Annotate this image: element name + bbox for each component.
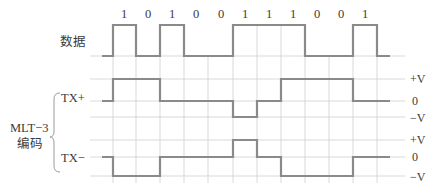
- bit-label: 1: [266, 7, 272, 21]
- tx-minus-zero-level: 0: [412, 150, 418, 164]
- tx-plus-label: TX+: [61, 91, 85, 105]
- bit-labels: 1 0 1 0 0 1 1 1 0 0 1: [121, 7, 368, 21]
- bit-label: 1: [169, 7, 175, 21]
- mlt3-label: MLT−3: [10, 121, 49, 135]
- encoding-label: 编码: [17, 136, 43, 151]
- bit-label: 1: [121, 7, 127, 21]
- tx-plus-high-level: +V: [410, 72, 426, 86]
- bit-label: 0: [314, 7, 320, 21]
- bit-label: 0: [193, 7, 199, 21]
- tx-plus-low-level: −V: [410, 111, 426, 125]
- bit-label: 0: [145, 7, 151, 21]
- tx-minus-signal: [102, 140, 390, 176]
- data-label: 数据: [60, 34, 86, 49]
- mlt3-diagram: 1 0 1 0 0 1 1 1 0 0 1 数据 TX+ TX− MLT−3 编…: [0, 0, 435, 189]
- tx-minus-high-level: +V: [410, 133, 426, 147]
- vertical-grid: [113, 25, 377, 183]
- group-brace: [50, 93, 60, 172]
- tx-plus-signal: [102, 79, 390, 117]
- bit-label: 0: [338, 7, 344, 21]
- tx-plus-zero-level: 0: [412, 94, 418, 108]
- bit-label: 1: [242, 7, 248, 21]
- tx-minus-low-level: −V: [410, 170, 426, 184]
- bit-label: 1: [290, 7, 296, 21]
- data-signal: [102, 25, 390, 56]
- bit-label: 1: [362, 7, 368, 21]
- bit-label: 0: [218, 7, 224, 21]
- tx-minus-label: TX−: [61, 151, 85, 165]
